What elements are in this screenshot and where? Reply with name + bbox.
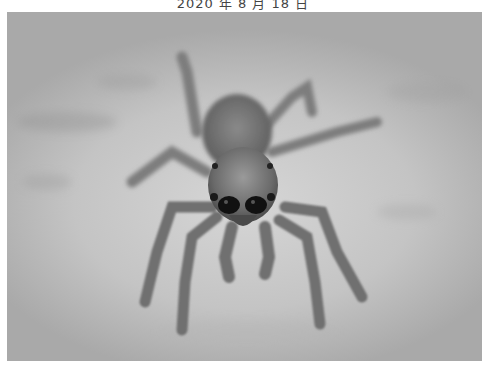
date-caption: 2020 年 8 月 18 日: [0, 0, 486, 12]
spider-cephalothorax: [208, 147, 278, 223]
spider-front-legs: [145, 207, 362, 330]
spider-photo: [7, 12, 482, 361]
spider-illustration: [7, 12, 482, 361]
